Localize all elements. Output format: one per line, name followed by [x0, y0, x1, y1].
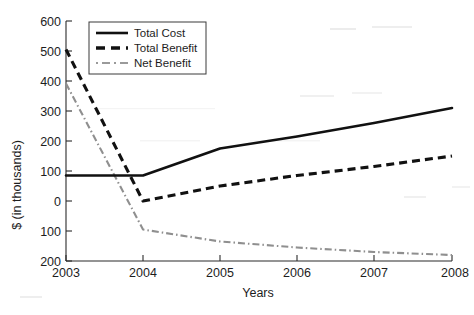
x-tick-label: 2007: [360, 266, 388, 280]
y-tick-label: 300: [40, 105, 61, 119]
x-tick-label: 2008: [441, 266, 469, 280]
x-tick-label: 2006: [283, 266, 311, 280]
line-chart-canvas: 600 500 400 300 200 100 0 100 200 2003 2…: [0, 0, 474, 315]
x-axis-tick-labels: 2003 2004 2005 2006 2007 2008: [52, 266, 469, 280]
chart-legend: Total Cost Total Benefit Net Benefit: [89, 22, 206, 74]
y-tick-label: 600: [40, 15, 61, 29]
legend-label-total-cost: Total Cost: [134, 27, 186, 39]
x-axis-ticks: [66, 255, 452, 261]
x-tick-label: 2005: [206, 266, 234, 280]
y-tick-label: 500: [40, 45, 61, 59]
series-group: [66, 50, 452, 256]
y-tick-label: 0: [54, 195, 61, 209]
x-axis-title: Years: [242, 286, 274, 300]
x-tick-label: 2003: [52, 266, 80, 280]
chart-figure: 600 500 400 300 200 100 0 100 200 2003 2…: [0, 0, 474, 315]
y-tick-label: 200: [40, 135, 61, 149]
y-axis-tick-labels: 600 500 400 300 200 100 0 100 200: [40, 15, 61, 269]
legend-label-total-benefit: Total Benefit: [134, 42, 198, 54]
y-tick-label: 400: [40, 75, 61, 89]
legend-label-net-benefit: Net Benefit: [134, 57, 192, 69]
x-tick-label: 2004: [129, 266, 157, 280]
y-tick-label: 100: [40, 165, 61, 179]
series-line-total-cost: [66, 108, 452, 176]
series-line-net-benefit: [66, 84, 452, 256]
y-tick-label: 100: [40, 225, 61, 239]
y-axis-title: $ (in thousands): [10, 140, 24, 230]
y-axis-ticks: [66, 21, 72, 261]
